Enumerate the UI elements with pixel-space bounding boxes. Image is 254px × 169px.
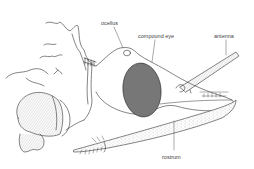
lower-lobes	[17, 92, 84, 152]
insect-head-illustration	[0, 0, 254, 169]
diagram-canvas: ocellus compound eye antenna rostrum	[0, 0, 254, 169]
label-antenna: antenna	[214, 34, 234, 40]
label-rostrum: rostrum	[162, 155, 181, 161]
label-compound-eye: compound eye	[138, 34, 174, 40]
ocellus-shape	[124, 50, 131, 56]
head-capsule	[96, 47, 234, 114]
label-ocellus: ocellus	[101, 21, 118, 27]
compound-eye-shape	[120, 61, 163, 119]
antenna-shape	[176, 52, 239, 93]
